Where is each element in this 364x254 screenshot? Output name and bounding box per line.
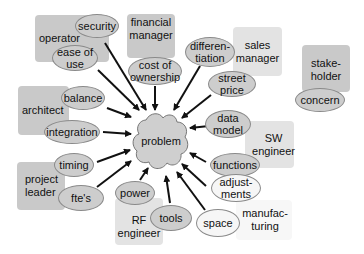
concern-space: space bbox=[196, 209, 240, 237]
concern-security: security bbox=[75, 14, 119, 38]
concern-data-model: data model bbox=[205, 110, 251, 138]
concern-cost-of-ownership: cost of ownership bbox=[128, 57, 182, 85]
arrow-functions bbox=[190, 153, 206, 162]
concern-differentiation: differen- tiation bbox=[185, 37, 235, 67]
concern-adjustments: adjust- ments bbox=[211, 174, 261, 202]
concern-power: power bbox=[115, 181, 155, 205]
arrow-balance bbox=[107, 108, 131, 117]
concern-ease-of-use: ease of use bbox=[52, 45, 98, 71]
concern-integration: integration bbox=[44, 120, 100, 144]
concern-street-price: street price bbox=[208, 71, 256, 97]
concern-balance: balance bbox=[61, 86, 105, 110]
concern-tools: tools bbox=[150, 205, 192, 231]
concern-timing: timing bbox=[54, 153, 94, 177]
arrow-timing bbox=[97, 150, 130, 162]
concern-ftes: fte's bbox=[58, 185, 104, 211]
arrow-integration bbox=[103, 132, 131, 134]
arrow-space bbox=[177, 172, 205, 210]
problem-label: problem bbox=[138, 135, 184, 147]
concern-concern: concern bbox=[295, 88, 345, 112]
arrow-tools bbox=[166, 176, 170, 203]
